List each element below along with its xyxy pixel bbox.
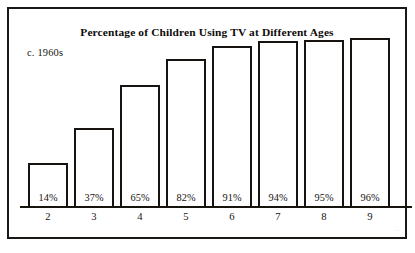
bar-value-label: 95%: [306, 192, 342, 204]
x-tick-label-age-4: 4: [120, 209, 160, 225]
bar-rect[interactable]: 95%: [304, 40, 344, 206]
bar-rect[interactable]: 91%: [212, 46, 252, 206]
plot-area: 14%37%65%82%91%94%95%96% 23456789: [20, 34, 400, 237]
x-tick-label-age-5: 5: [166, 209, 206, 225]
x-tick-label-age-2: 2: [28, 209, 68, 225]
bar-rect[interactable]: 82%: [166, 59, 206, 206]
bar-value-label: 65%: [122, 192, 158, 204]
x-axis-tick-labels: 23456789: [28, 209, 395, 229]
bar-value-label: 82%: [168, 192, 204, 204]
bar-rect[interactable]: 37%: [74, 128, 114, 206]
x-axis-baseline: [20, 206, 412, 208]
bar-rect[interactable]: 94%: [258, 41, 298, 206]
x-tick-label-age-6: 6: [212, 209, 252, 225]
x-tick-label-age-9: 9: [350, 209, 390, 225]
bar-series: 14%37%65%82%91%94%95%96%: [28, 34, 395, 206]
bar-rect[interactable]: 14%: [28, 163, 68, 206]
bar-value-label: 14%: [30, 192, 66, 204]
x-tick-label-age-3: 3: [74, 209, 114, 225]
bar-rect[interactable]: 65%: [120, 85, 160, 206]
bar-value-label: 94%: [260, 192, 296, 204]
x-tick-label-age-8: 8: [304, 209, 344, 225]
bar-value-label: 37%: [76, 192, 112, 204]
bar-rect[interactable]: 96%: [350, 38, 390, 206]
x-tick-label-age-7: 7: [258, 209, 298, 225]
bar-value-label: 91%: [214, 192, 250, 204]
scan-artifact-mark: '': [386, 230, 400, 236]
bar-value-label: 96%: [352, 192, 388, 204]
chart-frame: Percentage of Children Using TV at Diffe…: [7, 7, 407, 239]
